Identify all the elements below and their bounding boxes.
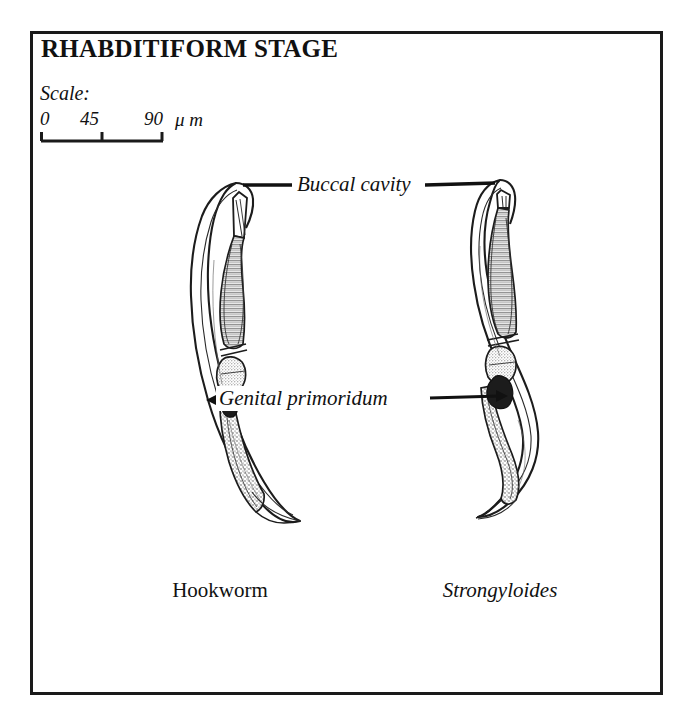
scale-bar-ruler-icon: [39, 130, 179, 146]
specimen-caption-hookworm: Hookworm: [145, 578, 295, 603]
scale-tick-label-0: 0: [40, 108, 50, 130]
annotation-genital-primordium: Genital primoridum: [216, 386, 391, 411]
scale-tick-label-45: 45: [80, 108, 99, 130]
page-title: RHABDITIFORM STAGE: [41, 36, 338, 62]
scale-tick-label-90: 90: [144, 108, 163, 130]
annotation-buccal-cavity: Buccal cavity: [294, 172, 414, 197]
specimen-caption-strongyloides: Strongyloides: [410, 578, 590, 603]
scale-unit-label: μ m: [175, 109, 203, 131]
scale-bar-group: Scale: 0 45 90 μ m: [40, 82, 260, 150]
scale-caption-label: Scale:: [40, 82, 90, 105]
